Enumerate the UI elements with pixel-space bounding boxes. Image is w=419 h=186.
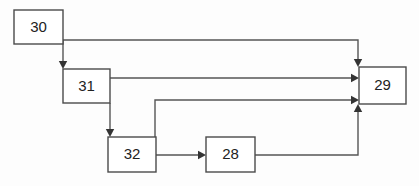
node-28[interactable]: 28 <box>206 137 255 172</box>
node-label-31: 31 <box>78 77 95 94</box>
node-31[interactable]: 31 <box>63 69 110 103</box>
arrowhead-30-to-31 <box>59 61 67 69</box>
arrowhead-31-to-29 <box>351 74 359 82</box>
node-32[interactable]: 32 <box>108 137 156 172</box>
arrowhead-30-to-29 <box>354 59 362 67</box>
edge-30-to-29 <box>63 40 358 61</box>
edge-32-to-29 <box>155 100 353 137</box>
nodes-layer: 3031322829 <box>14 10 406 172</box>
node-label-28: 28 <box>222 145 239 162</box>
node-29[interactable]: 29 <box>359 67 406 104</box>
arrowhead-32-to-29 <box>351 96 359 104</box>
flow-diagram-svg: 3031322829 <box>0 0 419 186</box>
node-label-30: 30 <box>30 18 47 35</box>
edge-28-to-29 <box>255 110 358 155</box>
node-label-32: 32 <box>124 145 141 162</box>
node-label-29: 29 <box>374 76 391 93</box>
arrowhead-32-to-28 <box>198 151 206 159</box>
node-30[interactable]: 30 <box>14 10 63 44</box>
arrowhead-31-to-32 <box>106 129 114 137</box>
block-diagram-canvas: 3031322829 <box>0 0 419 186</box>
arrowhead-28-to-29 <box>354 104 362 112</box>
